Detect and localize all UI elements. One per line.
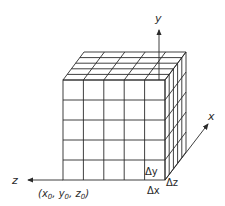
z-axis-label: z — [11, 174, 18, 187]
y-axis-label: y — [154, 12, 162, 25]
top-face-grid — [63, 52, 186, 80]
delta-z-label: Δz — [166, 177, 178, 188]
grid-cube-diagram: y z x (x0, y0, z0) Δy Δz Δx — [0, 0, 225, 206]
side-face-grid — [165, 52, 186, 180]
delta-y-label: Δy — [145, 166, 158, 177]
origin-label: (x0, y0, z0) — [38, 188, 89, 201]
delta-x-label: Δx — [147, 185, 160, 196]
front-face-grid — [63, 80, 165, 180]
x-axis-label: x — [207, 110, 215, 123]
